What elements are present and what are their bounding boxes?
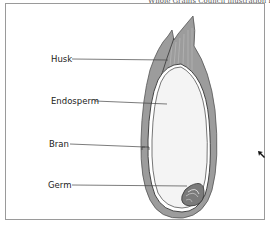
label-endosperm: Endosperm — [51, 96, 99, 106]
wheat-kernel-illustration — [0, 0, 270, 226]
bran-leader — [70, 144, 145, 147]
label-germ: Germ — [48, 180, 71, 190]
label-bran: Bran — [49, 139, 69, 149]
label-husk: Husk — [51, 54, 72, 64]
mouse-cursor-icon — [257, 150, 267, 160]
